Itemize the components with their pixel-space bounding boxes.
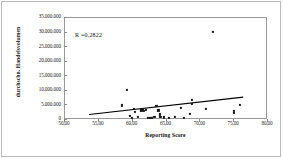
data-point	[126, 89, 128, 91]
x-axis-tick-mark	[132, 119, 133, 122]
data-point	[167, 117, 169, 119]
y-axis-tick-mark	[64, 90, 67, 91]
y-axis-tick-mark	[64, 17, 67, 18]
y-axis-tick-mark	[64, 61, 67, 62]
data-point	[174, 116, 176, 118]
data-point	[157, 109, 159, 111]
x-axis-tick-mark	[267, 119, 268, 122]
x-axis-tick-mark	[64, 119, 65, 122]
figure-frame: durchschn. Handelsvolumen 05.000.00010.0…	[1, 1, 281, 157]
data-point	[145, 109, 147, 111]
data-point	[188, 112, 190, 114]
data-point	[183, 117, 185, 119]
x-axis-ticks: 50,0055,0060,0065,0070,0075,0080,00	[64, 121, 267, 131]
x-axis-tick-mark	[233, 119, 234, 122]
y-axis-ticks: 05.000.00010.000.00015.000.00020.000.000…	[20, 17, 61, 119]
data-point	[155, 105, 157, 107]
data-layer	[65, 18, 266, 118]
x-axis-tick-mark	[166, 119, 167, 122]
data-point	[133, 108, 135, 110]
y-axis-tick-label: 15.000.000	[39, 73, 61, 78]
data-point	[153, 116, 155, 118]
y-axis-tick-label: 25.000.000	[39, 44, 61, 49]
y-axis-tick-mark	[64, 104, 67, 105]
x-axis-label: Reporting Score	[64, 132, 267, 138]
data-point	[134, 110, 136, 112]
y-axis-tick-mark	[64, 32, 67, 33]
data-point	[159, 116, 161, 118]
y-axis-tick-label: 20.000.000	[39, 58, 61, 63]
data-point	[180, 107, 182, 109]
x-axis-tick-mark	[98, 119, 99, 122]
data-point	[121, 104, 123, 106]
data-point	[238, 104, 240, 106]
y-axis-tick-mark	[64, 46, 67, 47]
y-axis-tick-label: 10.000.000	[39, 87, 61, 92]
y-axis-tick-label: 35.000.000	[39, 14, 61, 19]
data-point	[137, 116, 139, 118]
data-point	[190, 99, 192, 101]
data-point	[233, 112, 235, 114]
data-point	[233, 110, 235, 112]
data-point	[211, 31, 213, 33]
x-axis-tick-mark	[199, 119, 200, 122]
chart-screenshot: durchschn. Handelsvolumen 05.000.00010.0…	[0, 0, 283, 159]
data-point	[191, 103, 193, 105]
trend-line	[65, 18, 266, 118]
y-axis-tick-label: 5.000.000	[41, 102, 61, 107]
y-axis-tick-label: 30.000.000	[39, 29, 61, 34]
y-axis-tick-mark	[64, 75, 67, 76]
plot-area: R =0,2822	[64, 17, 267, 119]
data-point	[205, 108, 207, 110]
